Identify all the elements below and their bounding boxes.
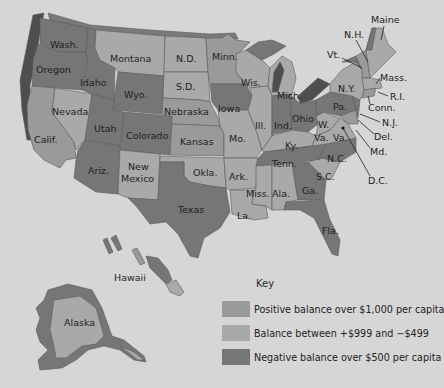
swatch-positive [222, 301, 250, 317]
key-label-positive: Positive balance over $1,000 per capita [254, 304, 444, 315]
label-wash: Wash. [50, 39, 79, 50]
key-item-negative: Negative balance over $500 per capita [248, 349, 441, 365]
label-sc: S.C. [316, 171, 335, 182]
label-wyo: Wyo. [124, 89, 148, 100]
label-mich: Mich. [277, 90, 302, 101]
key-item-balanced: Balance between +$999 and −$499 [248, 325, 429, 341]
label-ala: Ala. [272, 188, 290, 199]
state-hawaii[interactable] [103, 235, 184, 296]
label-new-mexico-2: Mexico [121, 173, 154, 184]
key-label-balanced: Balance between +$999 and −$499 [254, 328, 429, 339]
label-tenn: Tenn. [271, 158, 297, 169]
label-ny: N.Y. [338, 83, 355, 94]
label-oregon: Oregon [36, 64, 71, 75]
label-la: La. [237, 210, 251, 221]
label-dc: D.C. [368, 175, 388, 186]
label-md: Md. [370, 146, 387, 157]
label-conn: Conn. [368, 102, 396, 113]
label-texas: Texas [177, 204, 204, 215]
key-label-negative: Negative balance over $500 per capita [254, 352, 441, 363]
key-item-positive: Positive balance over $1,000 per capita [248, 301, 444, 317]
label-nd: N.D. [176, 53, 196, 64]
label-nevada: Nevada [52, 106, 88, 117]
label-montana: Montana [110, 53, 151, 64]
label-vt: Vt. [327, 49, 340, 60]
label-ohio: Ohio [292, 113, 314, 124]
label-maine: Maine [371, 14, 400, 25]
label-wis: Wis. [241, 77, 261, 88]
label-hawaii: Hawaii [114, 272, 146, 283]
label-kansas: Kansas [180, 136, 214, 147]
label-mass: Mass. [380, 72, 407, 83]
label-colorado: Colorado [126, 130, 169, 141]
label-iowa: Iowa [218, 103, 240, 114]
label-nebraska: Nebraska [164, 106, 209, 117]
swatch-balanced [222, 325, 250, 341]
label-ariz: Ariz. [88, 165, 109, 176]
key-title: Key [256, 278, 274, 289]
label-mo: Mo. [229, 133, 246, 144]
label-miss: Miss. [246, 188, 270, 199]
label-utah: Utah [94, 123, 117, 134]
label-wva-2: Va. [314, 132, 329, 143]
label-ill: Ill. [255, 120, 266, 131]
label-calif: Calif. [34, 134, 57, 145]
label-va: Va. [333, 132, 348, 143]
label-nh: N.H. [344, 29, 364, 40]
label-ga: Ga. [302, 185, 318, 196]
label-new-mexico-1: New [128, 161, 149, 172]
label-ark: Ark. [229, 171, 248, 182]
label-nj: N.J. [382, 117, 398, 128]
label-wva-1: W. [318, 119, 329, 130]
label-nc: N.C. [327, 153, 347, 164]
label-sd: S.D. [176, 81, 195, 92]
label-minn: Minn. [212, 51, 238, 62]
label-alaska: Alaska [64, 317, 95, 328]
label-del: Del. [374, 131, 393, 142]
label-ind: Ind. [274, 120, 292, 131]
label-ri: R.I. [390, 91, 405, 102]
label-fla: Fla. [322, 225, 339, 236]
label-idaho: Idaho [80, 77, 107, 88]
label-pa: Pa. [333, 101, 347, 112]
swatch-negative [222, 349, 250, 365]
label-okla: Okla. [193, 167, 217, 178]
label-ky: Ky. [285, 140, 298, 151]
